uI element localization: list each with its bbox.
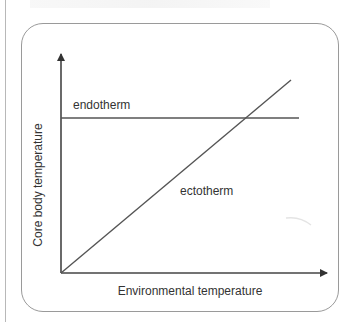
- ectotherm-label: ectotherm: [180, 184, 233, 198]
- y-axis-label: Core body temperature: [31, 123, 45, 246]
- faint-smudge: [286, 218, 311, 225]
- x-axis-label: Environmental temperature: [118, 284, 263, 298]
- temperature-diagram: [0, 0, 356, 322]
- endotherm-label: endotherm: [73, 98, 130, 112]
